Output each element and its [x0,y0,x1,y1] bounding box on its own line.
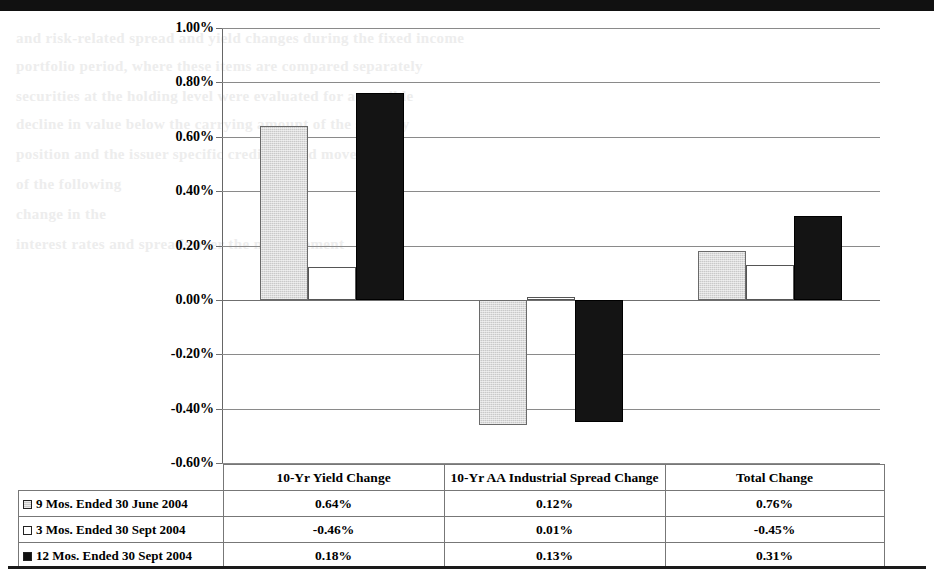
y-axis-tick [216,191,222,192]
scan-artifact-top-bar [0,0,934,11]
table-cell: 0.01% [444,517,665,543]
plot-area [222,28,880,463]
gridline [222,409,880,410]
bar-chart-figure: 1.00%0.80%0.60%0.40%0.20%0.00%-0.20%-0.4… [0,11,934,563]
table-column-header: 10-Yr Yield Change [223,465,444,491]
table-row: 3 Mos. Ended 30 Sept 2004-0.46%0.01%-0.4… [19,517,885,543]
table-cell: 0.76% [665,491,884,517]
bar [698,251,746,300]
table-cell: 0.31% [665,543,884,569]
gridline [222,300,880,301]
table-cell: -0.45% [665,517,884,543]
table-cell: 0.18% [223,543,444,569]
y-axis-tick [216,137,222,138]
y-axis-tick [216,82,222,83]
y-axis-tick [216,409,222,410]
gridline [222,354,880,355]
table-column-header: Total Change [665,465,884,491]
bar [479,300,527,425]
legend-swatch-icon [23,500,32,509]
table-header-row: 10-Yr Yield Change10-Yr AA Industrial Sp… [19,465,885,491]
legend-row-label: 9 Mos. Ended 30 June 2004 [19,491,224,517]
gridline [222,246,880,247]
table-row: 12 Mos. Ended 30 Sept 20040.18%0.13%0.31… [19,543,885,569]
y-axis-tick-label: 1.00% [134,21,214,35]
y-axis-tick-label: 0.20% [134,239,214,253]
y-axis-tick-label: 0.60% [134,130,214,144]
legend-row-label: 12 Mos. Ended 30 Sept 2004 [19,543,224,569]
bar [308,267,356,300]
table-cell: 0.64% [223,491,444,517]
y-axis-tick-label: 0.00% [134,293,214,307]
bar [527,297,575,300]
y-axis-tick-label: 0.80% [134,75,214,89]
table-cell: 0.12% [444,491,665,517]
y-axis-tick-label: -0.20% [134,347,214,361]
bar [260,126,308,300]
bar [746,265,794,300]
table-body: 9 Mos. Ended 30 June 20040.64%0.12%0.76%… [19,491,885,569]
table-row: 9 Mos. Ended 30 June 20040.64%0.12%0.76% [19,491,885,517]
legend-swatch-icon [23,552,32,561]
bar [575,300,623,422]
y-axis-tick [216,246,222,247]
bar [794,216,842,300]
chart-data-table: 10-Yr Yield Change10-Yr AA Industrial Sp… [18,464,885,569]
footer-rule [8,566,926,569]
gridline [222,28,880,29]
y-axis-tick-label: -0.40% [134,402,214,416]
table-corner-cell [19,465,224,491]
table-column-header: 10-Yr AA Industrial Spread Change [444,465,665,491]
y-axis-tick-label: 0.40% [134,184,214,198]
legend-row-label: 3 Mos. Ended 30 Sept 2004 [19,517,224,543]
gridline [222,191,880,192]
y-axis-tick [216,300,222,301]
table-header: 10-Yr Yield Change10-Yr AA Industrial Sp… [19,465,885,491]
legend-label-text: 3 Mos. Ended 30 Sept 2004 [36,522,186,537]
y-axis-tick [216,354,222,355]
y-axis-tick [216,28,222,29]
bar [356,93,404,300]
gridline [222,137,880,138]
y-axis-tick-labels: 1.00%0.80%0.60%0.40%0.20%0.00%-0.20%-0.4… [128,28,214,463]
legend-swatch-icon [23,526,32,535]
table-cell: 0.13% [444,543,665,569]
gridline [222,82,880,83]
legend-label-text: 12 Mos. Ended 30 Sept 2004 [36,548,192,563]
legend-label-text: 9 Mos. Ended 30 June 2004 [36,496,188,511]
table-cell: -0.46% [223,517,444,543]
